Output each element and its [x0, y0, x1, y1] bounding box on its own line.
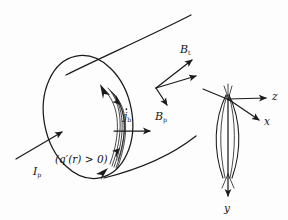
safety-factor-condition-label: (q′(r) > 0): [55, 153, 108, 165]
toroidal-field-arrow: [156, 60, 192, 88]
resultant-field-arrow: [156, 76, 196, 88]
poloidal-field-arrow: [156, 88, 167, 105]
cylinder-bottom-edge: [104, 136, 196, 178]
bootstrap-current-label: jb: [122, 110, 131, 123]
ellipse-current-arrowhead-top: [100, 84, 110, 99]
axis-y-label: y: [223, 202, 231, 214]
field-vector-triad: [156, 60, 196, 105]
bootstrap-vector-dot: [126, 108, 128, 110]
axis-x-label: x: [264, 115, 270, 127]
coordinate-frame: [203, 84, 266, 196]
poloidal-field-label: Bp: [154, 110, 167, 124]
cylinder-top-edge: [66, 15, 191, 75]
toroidal-field-label: Bt: [179, 43, 191, 56]
figure-root: Ip (q′(r) > 0) jb Bt Bp: [0, 0, 288, 220]
plasma-current-label: Ip: [32, 165, 41, 179]
axis-z-label: z: [271, 90, 278, 102]
plasma-geometry-diagram: Ip (q′(r) > 0) jb Bt Bp: [0, 0, 288, 220]
axis-z-arrow: [228, 98, 266, 99]
helical-field-bundle: [106, 88, 126, 169]
